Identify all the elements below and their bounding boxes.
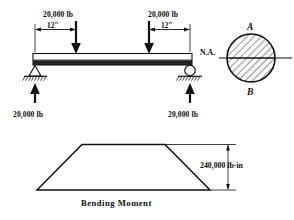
reaction-arrow-right <box>185 83 195 103</box>
figure-page: 20,000 lb 20,000 lb 12″ 12″ <box>0 0 294 220</box>
reaction-arrow-left <box>30 83 40 103</box>
ground-hatching-left <box>23 76 47 80</box>
point-b-label: B <box>246 87 253 97</box>
beam-member <box>33 54 192 66</box>
bending-moment-caption: Bending Moment <box>81 198 152 208</box>
beam-bending-figure: 20,000 lb 20,000 lb 12″ 12″ <box>0 0 294 220</box>
moment-dimension: 240,000 lb-in <box>166 145 244 191</box>
roller-support-right <box>177 65 203 80</box>
reaction-left-label: 20,000 lb <box>13 110 43 119</box>
dimension-left-label: 12″ <box>47 21 58 30</box>
ground-hatching-right <box>177 76 201 80</box>
pin-support-left <box>23 66 48 81</box>
point-a-label: A <box>246 22 253 32</box>
reaction-right-label: 20,000 lb <box>168 110 198 119</box>
dimension-right-label: 12″ <box>161 21 172 30</box>
load-right-label: 20,000 lb <box>148 10 178 19</box>
dimension-left-12in: 12″ <box>35 21 76 52</box>
dimension-right-12in: 12″ <box>149 21 190 52</box>
load-arrow-left <box>71 21 81 54</box>
cross-section-circle <box>219 34 292 82</box>
load-arrow-right <box>144 21 154 54</box>
bending-moment-diagram <box>37 145 210 191</box>
moment-value-label: 240,000 lb-in <box>200 161 244 170</box>
neutral-axis-label: N.A. <box>200 48 215 57</box>
load-left-label: 20,000 lb <box>43 10 73 19</box>
